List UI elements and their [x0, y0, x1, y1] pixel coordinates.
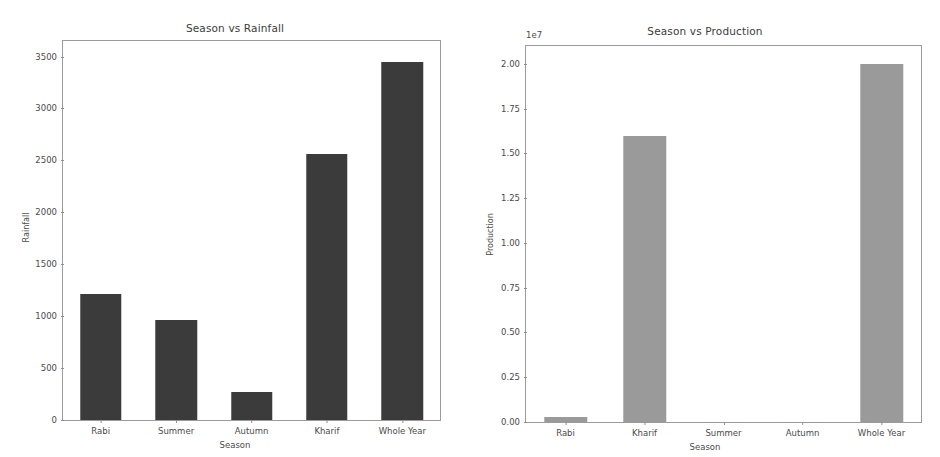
- y-axis-tick-rainfall: 2500: [35, 155, 63, 165]
- y-axis-tick-production: 1.25: [501, 193, 526, 203]
- x-axis-tick-rainfall: Autumn: [235, 420, 269, 436]
- bar-rainfall: [382, 62, 423, 420]
- y-axis-tick-rainfall: 1500: [35, 259, 63, 269]
- plot-area-production: 0.000.250.500.751.001.251.501.752.00Rabi…: [525, 45, 922, 423]
- y-axis-tick-rainfall: 500: [41, 363, 63, 373]
- x-axis-tick-rainfall: Rabi: [91, 420, 110, 436]
- plot-area-rainfall: 0500100015002000250030003500RabiSummerAu…: [62, 40, 441, 421]
- y-axis-tick-production: 1.75: [501, 104, 526, 114]
- x-axis-tick-rainfall: Summer: [158, 420, 194, 436]
- x-axis-label-production: Season: [470, 442, 940, 452]
- y-axis-tick-rainfall: 1000: [35, 311, 63, 321]
- x-axis-label-rainfall: Season: [0, 440, 470, 450]
- bar-production: [860, 64, 903, 422]
- y-axis-tick-rainfall: 2000: [35, 207, 63, 217]
- y-axis-tick-production: 0.00: [501, 417, 526, 427]
- x-axis-tick-production: Kharif: [632, 422, 657, 438]
- y-axis-tick-production: 1.50: [501, 148, 526, 158]
- chart-panel-production: Season vs Production 1e7 0.000.250.500.7…: [470, 0, 940, 457]
- y-axis-tick-production: 0.25: [501, 372, 526, 382]
- x-axis-tick-production: Whole Year: [858, 422, 905, 438]
- y-axis-tick-rainfall: 3500: [35, 52, 63, 62]
- x-axis-tick-production: Rabi: [556, 422, 575, 438]
- y-axis-tick-production: 0.75: [501, 283, 526, 293]
- x-axis-tick-production: Autumn: [786, 422, 820, 438]
- y-axis-label-rainfall: Rainfall: [22, 198, 31, 258]
- y-axis-tick-production: 1.00: [501, 238, 526, 248]
- chart-panel-rainfall: Season vs Rainfall 050010001500200025003…: [0, 0, 470, 457]
- y-axis-tick-rainfall: 3000: [35, 103, 63, 113]
- y-axis-tick-production: 2.00: [501, 59, 526, 69]
- bar-production: [544, 417, 587, 422]
- bar-rainfall: [231, 392, 272, 420]
- x-axis-tick-production: Summer: [705, 422, 741, 438]
- bar-production: [623, 136, 666, 422]
- y-axis-label-production: Production: [486, 205, 495, 265]
- bar-rainfall: [80, 294, 121, 420]
- x-axis-tick-rainfall: Whole Year: [379, 420, 426, 436]
- chart-title-rainfall: Season vs Rainfall: [0, 22, 470, 34]
- bar-rainfall: [306, 154, 347, 420]
- matplotlib-figure: Season vs Rainfall 050010001500200025003…: [0, 0, 940, 457]
- y-axis-tick-rainfall: 0: [52, 415, 63, 425]
- y-axis-offset-production: 1e7: [526, 30, 542, 40]
- bar-rainfall: [155, 320, 196, 420]
- y-axis-tick-production: 0.50: [501, 327, 526, 337]
- x-axis-tick-rainfall: Kharif: [314, 420, 339, 436]
